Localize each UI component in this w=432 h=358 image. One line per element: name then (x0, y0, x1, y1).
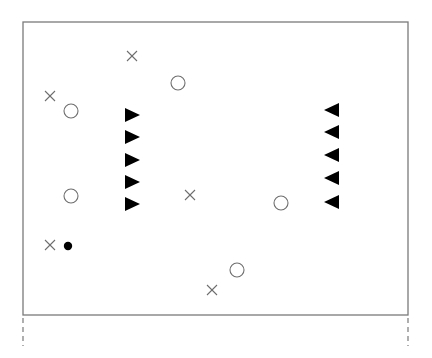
right-triangle-icon (125, 175, 140, 189)
open-circle-icon (64, 189, 78, 203)
filled-circle-icon (64, 242, 72, 250)
left-triangle-icon (324, 195, 339, 209)
open-circle-icon (274, 196, 288, 210)
frame-rectangle (23, 22, 408, 315)
right-triangle-icon (125, 108, 140, 122)
open-circle-icon (230, 263, 244, 277)
cross-icon (185, 190, 195, 200)
right-triangle-icon (125, 153, 140, 167)
open-circle-markers (64, 76, 288, 277)
frame (23, 22, 408, 315)
cross-icon (45, 91, 55, 101)
open-circle-icon (64, 104, 78, 118)
left-triangle-icon (324, 125, 339, 139)
left-triangle-markers (324, 103, 339, 209)
open-circle-icon (171, 76, 185, 90)
right-triangle-markers (125, 108, 140, 211)
cross-icon (127, 51, 137, 61)
cross-icon (207, 285, 217, 295)
cross-icon (45, 240, 55, 250)
left-triangle-icon (324, 148, 339, 162)
left-triangle-icon (324, 171, 339, 185)
right-triangle-icon (125, 197, 140, 211)
cross-markers (45, 51, 217, 295)
dashed-extensions (23, 318, 408, 346)
filled-circle-markers (64, 242, 72, 250)
diagram-canvas (0, 0, 432, 358)
left-triangle-icon (324, 103, 339, 117)
right-triangle-icon (125, 130, 140, 144)
